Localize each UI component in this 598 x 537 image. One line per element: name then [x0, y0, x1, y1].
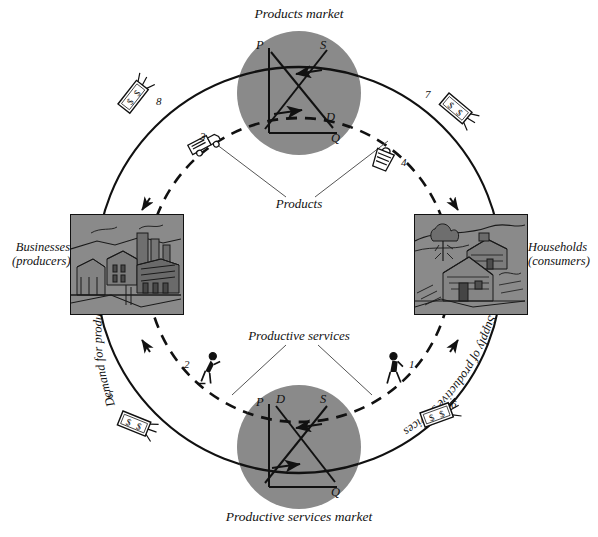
products-curve-demand: D: [326, 110, 335, 124]
products-curve-supply: S: [320, 38, 326, 52]
households-label: Households (consumers): [528, 240, 598, 269]
businesses-label: Businesses (producers): [12, 240, 70, 269]
banknote-icon-5: $ $: [116, 410, 159, 442]
industrial-cityscape-illustration: [71, 215, 181, 312]
services-curve-supply: S: [320, 392, 326, 406]
callout-number-5: 5: [108, 388, 114, 400]
callout-number-4: 4: [401, 156, 407, 168]
demand-for-productive-services-curved-label: Demand for productive services: [0, 0, 118, 410]
callout-number-1: 1: [409, 358, 415, 370]
callout-number-7: 7: [425, 88, 431, 100]
products-flow-label: Products: [229, 197, 369, 212]
callout-number-8: 8: [156, 95, 162, 107]
circular-flow-diagram: Demand for productive services Supply of…: [0, 0, 598, 537]
services-axis-quantity: Q: [331, 485, 340, 499]
businesses-image: [70, 214, 184, 315]
productive-services-market-title: Productive services market: [0, 509, 598, 525]
banknote-icon-7: $ $: [438, 91, 480, 131]
shopping-bag-icon: [371, 145, 396, 172]
products-market-title: Products market: [0, 6, 598, 22]
services-curve-demand: D: [276, 392, 285, 406]
banknote-icon-8: $ $: [116, 72, 155, 114]
callout-number-2: 2: [184, 358, 190, 370]
products-axis-quantity: Q: [331, 131, 340, 145]
worker-walking-icon: [387, 353, 403, 384]
households-label-line1: Households: [528, 240, 598, 254]
products-axis-price: P: [256, 38, 264, 52]
businesses-label-line2: (producers): [12, 254, 70, 268]
worker-laboring-icon: [197, 353, 220, 384]
services-axis-price: P: [256, 395, 264, 409]
supply-of-productive-services-curved-label: Supply of productive services: [401, 314, 500, 439]
businesses-label-line1: Businesses: [12, 240, 70, 254]
callout-number-3: 3: [200, 130, 206, 142]
productive-services-flow-label: Productive services: [219, 329, 379, 344]
households-label-line2: (consumers): [528, 254, 598, 268]
callout-number-6: 6: [451, 398, 457, 410]
rural-houses-illustration: [415, 215, 525, 312]
households-image: [414, 214, 528, 315]
